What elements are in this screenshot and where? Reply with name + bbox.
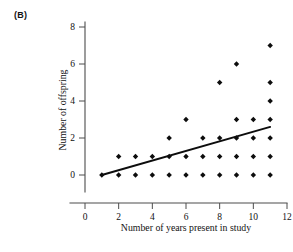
x-axis-ticks: 024681012 [83, 203, 292, 222]
data-point [200, 154, 205, 159]
x-tick-label: 6 [184, 212, 189, 222]
y-axis-ticks: 02468 [70, 22, 85, 180]
data-point [267, 43, 272, 48]
x-tick-label: 4 [150, 212, 155, 222]
x-tick-label: 2 [116, 212, 121, 222]
data-point [133, 154, 138, 159]
data-point [116, 154, 121, 159]
data-points [99, 43, 273, 178]
data-point [267, 154, 272, 159]
data-point [150, 154, 155, 159]
data-point [166, 172, 171, 177]
data-point [150, 172, 155, 177]
data-point [217, 80, 222, 85]
data-point [251, 117, 256, 122]
y-axis-title: Number of offspring [57, 69, 68, 150]
data-point [183, 172, 188, 177]
y-tick-label: 2 [70, 133, 75, 143]
data-point [234, 172, 239, 177]
data-point [251, 135, 256, 140]
data-point [217, 172, 222, 177]
data-point [234, 154, 239, 159]
scatter-plot: 02468 024681012 Number of years present … [0, 0, 293, 252]
y-tick-label: 8 [70, 22, 75, 32]
data-point [166, 135, 171, 140]
data-point [267, 98, 272, 103]
data-point [251, 154, 256, 159]
data-point [267, 80, 272, 85]
data-point [183, 117, 188, 122]
data-point [267, 135, 272, 140]
x-tick-label: 0 [83, 212, 88, 222]
data-point [267, 117, 272, 122]
figure-panel-b: (B) 02468 024681012 Number of years pres… [0, 0, 293, 252]
y-tick-label: 6 [70, 59, 75, 69]
data-point [234, 61, 239, 66]
regression-line [102, 127, 270, 175]
y-tick-label: 4 [70, 96, 75, 106]
data-point [183, 154, 188, 159]
data-point [200, 135, 205, 140]
data-point [251, 172, 256, 177]
data-point [217, 154, 222, 159]
y-tick-label: 0 [70, 170, 75, 180]
data-point [267, 172, 272, 177]
data-point [116, 172, 121, 177]
data-point [234, 117, 239, 122]
x-axis-title: Number of years present in study [121, 222, 251, 233]
x-tick-label: 12 [282, 212, 292, 222]
data-point [200, 172, 205, 177]
x-tick-label: 10 [249, 212, 259, 222]
data-point [133, 172, 138, 177]
x-tick-label: 8 [217, 212, 222, 222]
